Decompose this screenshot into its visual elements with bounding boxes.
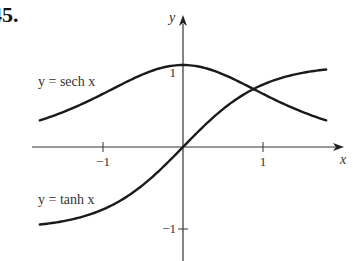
y-tick-label: 1 bbox=[170, 65, 177, 80]
y-axis-label: y bbox=[167, 10, 176, 25]
x-axis-label: x bbox=[339, 152, 347, 167]
y-tick-label: −1 bbox=[162, 221, 176, 236]
x-tick-label: 1 bbox=[260, 154, 267, 169]
tanh-label: y = tanh x bbox=[38, 192, 95, 207]
x-tick-label: −1 bbox=[96, 154, 110, 169]
chart: −111−1xyy = sech xy = tanh x bbox=[0, 0, 353, 261]
sech-label: y = sech x bbox=[38, 74, 95, 89]
